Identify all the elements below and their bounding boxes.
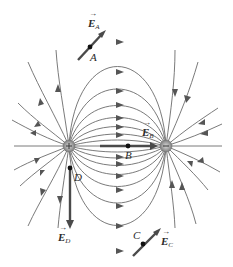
label-field-A: EA — [88, 18, 100, 31]
point-C — [141, 242, 146, 247]
label-point-C: C — [133, 230, 140, 241]
field-lines — [12, 50, 222, 228]
label-field-B: EB — [142, 127, 154, 140]
negative-charge — [160, 140, 172, 152]
positive-charge — [63, 140, 75, 152]
point-D — [68, 166, 73, 171]
point-B — [126, 144, 131, 149]
field-vector-D — [66, 168, 74, 229]
point-A — [88, 45, 93, 50]
label-field-C: EC — [161, 236, 173, 249]
label-point-A: A — [90, 52, 97, 63]
label-point-D: D — [74, 172, 82, 183]
label-field-D: ED — [58, 232, 70, 245]
dipole-field-diagram — [0, 0, 233, 267]
label-point-B: B — [125, 150, 132, 161]
